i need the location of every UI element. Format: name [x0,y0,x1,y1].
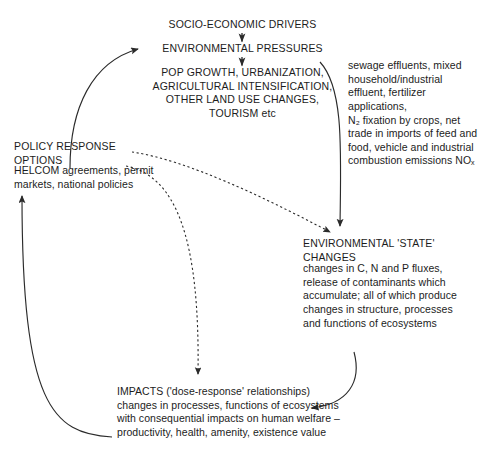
node-pressure-detail: sewage effluents, mixed household/indust… [348,59,482,168]
node-pop-growth-urbanization: POP GROWTH, URBANIZATION, AGRICULTURAL I… [130,66,355,121]
node-impacts: IMPACTS ('dose-response' relationships) … [117,385,342,440]
connector-policy-options-to-state-changes [132,152,330,232]
diagram-canvas: SOCIO-ECONOMIC DRIVERS ENVIRONMENTAL PRE… [0,0,485,468]
connector-impacts-to-policy-options [22,196,112,437]
node-socio-economic-drivers: SOCIO-ECONOMIC DRIVERS [155,18,330,32]
node-environmental-state-changes-detail: changes in C, N and P fluxes, release of… [303,262,463,330]
connector-policy-options-to-impacts [126,166,198,374]
node-environmental-state-changes-heading: ENVIRONMENTAL 'STATE' CHANGES [303,237,463,264]
node-policy-response-options-detail: HELCOM agreements, permit markets, natio… [14,164,154,191]
node-environmental-pressures: ENVIRONMENTAL PRESSURES [150,42,335,56]
